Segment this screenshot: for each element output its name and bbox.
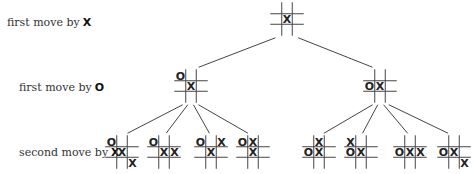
x-mark-icon: X — [357, 146, 366, 159]
tree-edge — [193, 105, 209, 134]
x-mark-icon: X — [187, 80, 196, 93]
x-mark-icon: X — [315, 146, 324, 159]
tic-tac-toe-board: OXX — [437, 135, 471, 169]
x-mark-icon: X — [283, 13, 292, 26]
o-mark-icon: O — [238, 136, 247, 149]
x-mark-icon: X — [207, 146, 216, 159]
tree-edge — [298, 38, 372, 68]
game-tree: XOXOXOXXOXXOXXOXXXOXXOXOXXOXX — [0, 0, 474, 174]
tree-edge — [389, 105, 448, 134]
o-mark-icon: O — [196, 136, 205, 149]
tree-nodes: XOXOXOXXOXXOXXOXXXOXXOXOXXOXX — [105, 2, 471, 169]
tree-edge — [384, 105, 408, 134]
tic-tac-toe-board: OXX — [105, 135, 139, 169]
o-mark-icon: O — [304, 146, 313, 159]
tree-edges — [128, 38, 449, 134]
tree-edge — [128, 105, 183, 134]
x-mark-icon: X — [249, 146, 258, 159]
tic-tac-toe-board: XOX — [344, 135, 378, 169]
o-mark-icon: O — [439, 146, 448, 159]
o-mark-icon: O — [176, 70, 185, 83]
tic-tac-toe-board: OXX — [194, 135, 228, 169]
o-mark-icon: O — [107, 136, 116, 149]
tic-tac-toe-board: OXX — [147, 135, 181, 169]
x-mark-icon: X — [118, 146, 127, 159]
tree-edge — [166, 105, 188, 134]
tic-tac-toe-board: XOX — [302, 135, 336, 169]
x-mark-icon: X — [170, 146, 179, 159]
tic-tac-toe-board: X — [270, 2, 304, 36]
x-mark-icon: X — [128, 157, 137, 170]
tic-tac-toe-board: OX — [174, 69, 208, 103]
tic-tac-toe-board: OXX — [393, 135, 427, 169]
tic-tac-toe-board: OX — [363, 69, 397, 103]
x-mark-icon: X — [460, 157, 469, 170]
x-mark-icon: X — [217, 136, 226, 149]
o-mark-icon: O — [395, 146, 404, 159]
x-mark-icon: X — [450, 146, 459, 159]
x-mark-icon: X — [416, 146, 425, 159]
o-mark-icon: O — [365, 80, 374, 93]
x-mark-icon: X — [406, 146, 415, 159]
tree-edge — [198, 105, 248, 134]
o-mark-icon: O — [346, 146, 355, 159]
x-mark-icon: X — [160, 146, 169, 159]
o-mark-icon: O — [149, 136, 158, 149]
tic-tac-toe-board: OXX — [236, 135, 270, 169]
tree-edge — [199, 38, 276, 68]
x-mark-icon: X — [376, 80, 385, 93]
